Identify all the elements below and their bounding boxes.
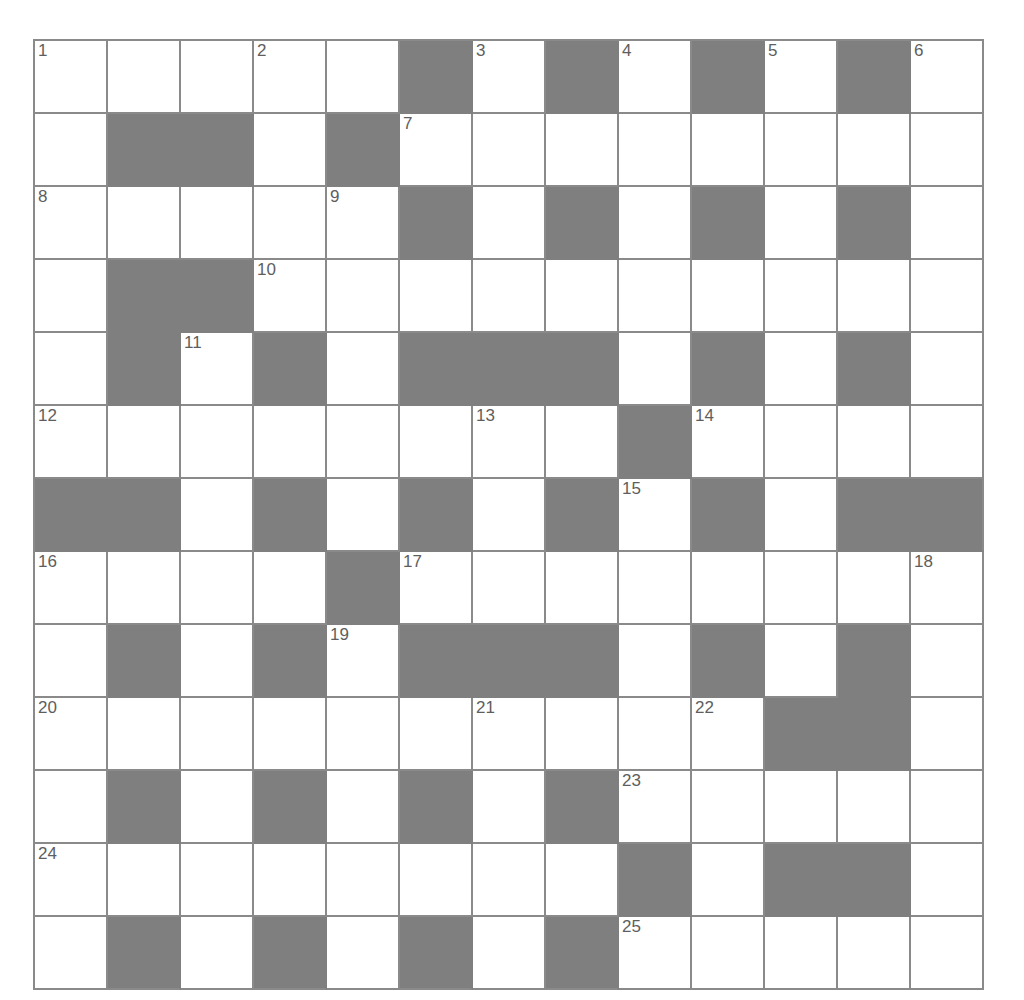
crossword-cell[interactable] <box>108 698 181 771</box>
crossword-cell[interactable] <box>327 260 400 333</box>
crossword-cell[interactable] <box>181 771 254 844</box>
crossword-cell[interactable] <box>327 333 400 406</box>
crossword-cell[interactable] <box>692 114 765 187</box>
crossword-cell[interactable] <box>35 114 108 187</box>
crossword-cell[interactable] <box>400 698 473 771</box>
crossword-cell[interactable] <box>911 260 984 333</box>
crossword-cell[interactable] <box>327 698 400 771</box>
crossword-cell[interactable] <box>911 187 984 260</box>
crossword-cell[interactable] <box>327 406 400 479</box>
crossword-cell[interactable] <box>400 260 473 333</box>
crossword-cell[interactable] <box>473 917 546 990</box>
crossword-cell[interactable] <box>838 917 911 990</box>
crossword-cell[interactable] <box>546 698 619 771</box>
crossword-cell[interactable] <box>619 625 692 698</box>
crossword-cell[interactable] <box>254 844 327 917</box>
crossword-cell[interactable] <box>254 187 327 260</box>
crossword-cell[interactable] <box>400 406 473 479</box>
crossword-cell[interactable] <box>692 552 765 625</box>
crossword-cell[interactable]: 21 <box>473 698 546 771</box>
crossword-cell[interactable]: 2 <box>254 41 327 114</box>
crossword-cell[interactable]: 5 <box>765 41 838 114</box>
crossword-cell[interactable] <box>911 698 984 771</box>
crossword-cell[interactable] <box>838 771 911 844</box>
crossword-cell[interactable] <box>181 698 254 771</box>
crossword-cell[interactable] <box>692 260 765 333</box>
crossword-cell[interactable]: 19 <box>327 625 400 698</box>
crossword-cell[interactable] <box>911 406 984 479</box>
crossword-cell[interactable] <box>254 406 327 479</box>
crossword-cell[interactable]: 22 <box>692 698 765 771</box>
crossword-cell[interactable] <box>838 552 911 625</box>
crossword-cell[interactable] <box>765 771 838 844</box>
crossword-cell[interactable] <box>327 41 400 114</box>
crossword-cell[interactable] <box>619 698 692 771</box>
crossword-cell[interactable] <box>181 917 254 990</box>
crossword-cell[interactable] <box>765 625 838 698</box>
crossword-cell[interactable] <box>692 917 765 990</box>
crossword-cell[interactable] <box>838 406 911 479</box>
crossword-cell[interactable] <box>619 260 692 333</box>
crossword-cell[interactable]: 7 <box>400 114 473 187</box>
crossword-cell[interactable]: 25 <box>619 917 692 990</box>
crossword-cell[interactable]: 12 <box>35 406 108 479</box>
crossword-cell[interactable] <box>619 333 692 406</box>
crossword-cell[interactable] <box>181 479 254 552</box>
crossword-cell[interactable]: 6 <box>911 41 984 114</box>
crossword-cell[interactable] <box>35 917 108 990</box>
crossword-cell[interactable] <box>692 771 765 844</box>
crossword-cell[interactable]: 14 <box>692 406 765 479</box>
crossword-cell[interactable] <box>765 479 838 552</box>
crossword-cell[interactable] <box>546 114 619 187</box>
crossword-cell[interactable] <box>35 771 108 844</box>
crossword-cell[interactable] <box>108 552 181 625</box>
crossword-cell[interactable] <box>473 114 546 187</box>
crossword-cell[interactable] <box>911 333 984 406</box>
crossword-cell[interactable] <box>546 844 619 917</box>
crossword-cell[interactable] <box>254 114 327 187</box>
crossword-cell[interactable]: 18 <box>911 552 984 625</box>
crossword-cell[interactable] <box>765 114 838 187</box>
crossword-cell[interactable]: 4 <box>619 41 692 114</box>
crossword-cell[interactable]: 16 <box>35 552 108 625</box>
crossword-cell[interactable] <box>181 41 254 114</box>
crossword-cell[interactable]: 23 <box>619 771 692 844</box>
crossword-cell[interactable] <box>473 771 546 844</box>
crossword-cell[interactable] <box>181 552 254 625</box>
crossword-cell[interactable] <box>108 187 181 260</box>
crossword-cell[interactable] <box>181 406 254 479</box>
crossword-cell[interactable] <box>400 844 473 917</box>
crossword-cell[interactable] <box>546 406 619 479</box>
crossword-cell[interactable]: 8 <box>35 187 108 260</box>
crossword-cell[interactable] <box>327 844 400 917</box>
crossword-cell[interactable] <box>838 114 911 187</box>
crossword-cell[interactable] <box>911 625 984 698</box>
crossword-cell[interactable]: 10 <box>254 260 327 333</box>
crossword-cell[interactable] <box>619 552 692 625</box>
crossword-cell[interactable] <box>473 844 546 917</box>
crossword-cell[interactable] <box>765 552 838 625</box>
crossword-cell[interactable]: 1 <box>35 41 108 114</box>
crossword-cell[interactable] <box>473 552 546 625</box>
crossword-cell[interactable] <box>35 260 108 333</box>
crossword-cell[interactable] <box>108 844 181 917</box>
crossword-cell[interactable] <box>911 917 984 990</box>
crossword-cell[interactable] <box>108 41 181 114</box>
crossword-cell[interactable] <box>619 187 692 260</box>
crossword-cell[interactable] <box>546 552 619 625</box>
crossword-cell[interactable] <box>108 406 181 479</box>
crossword-cell[interactable] <box>473 187 546 260</box>
crossword-cell[interactable]: 20 <box>35 698 108 771</box>
crossword-cell[interactable] <box>181 625 254 698</box>
crossword-cell[interactable] <box>473 260 546 333</box>
crossword-cell[interactable] <box>181 187 254 260</box>
crossword-cell[interactable] <box>838 260 911 333</box>
crossword-grid[interactable]: 1234567891011121314151617181920212223242… <box>33 39 984 990</box>
crossword-cell[interactable]: 15 <box>619 479 692 552</box>
crossword-cell[interactable] <box>327 771 400 844</box>
crossword-cell[interactable] <box>181 844 254 917</box>
crossword-cell[interactable]: 11 <box>181 333 254 406</box>
crossword-cell[interactable] <box>546 260 619 333</box>
crossword-cell[interactable] <box>911 114 984 187</box>
crossword-cell[interactable]: 24 <box>35 844 108 917</box>
